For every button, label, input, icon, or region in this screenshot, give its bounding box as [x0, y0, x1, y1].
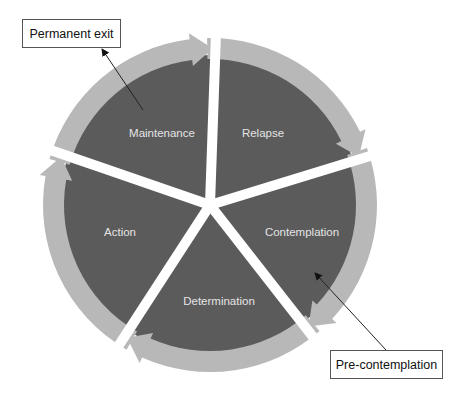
permanent-exit-box: Permanent exit	[22, 19, 121, 48]
pre-contemplation-box: Pre-contemplation	[330, 350, 443, 379]
pre-contemplation-label: Pre-contemplation	[336, 358, 437, 372]
cycle-diagram: Relapse Contemplation Determination Acti…	[0, 0, 460, 394]
stage-label-maintenance: Maintenance	[129, 127, 195, 139]
stage-label-action: Action	[104, 226, 136, 238]
stage-label-determination: Determination	[183, 295, 255, 307]
stage-label-contemplation: Contemplation	[265, 226, 339, 238]
permanent-exit-label: Permanent exit	[29, 27, 113, 41]
sector-gap	[210, 24, 216, 205]
stage-label-relapse: Relapse	[242, 127, 284, 139]
